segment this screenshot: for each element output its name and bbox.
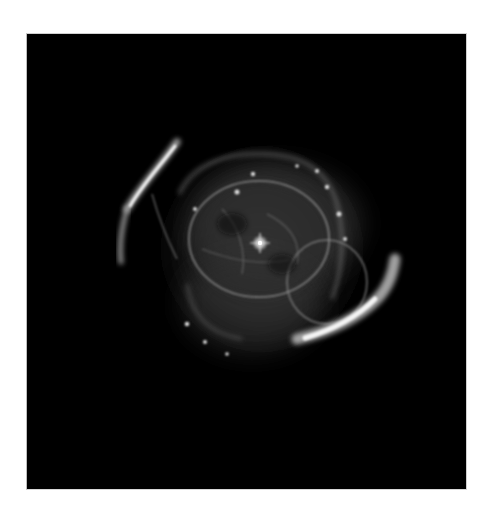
nebula-canvas xyxy=(27,34,467,490)
nebula-image: Grayscale astronomical image of a planet… xyxy=(26,33,467,490)
